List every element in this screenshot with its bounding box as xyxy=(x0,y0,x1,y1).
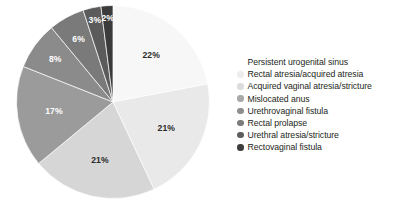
legend-item[interactable]: Urethral atresia/stricture xyxy=(237,129,402,141)
pie-slice-label: 6% xyxy=(72,34,85,44)
legend-swatch-icon xyxy=(237,108,244,115)
legend-swatch-icon xyxy=(237,132,244,139)
legend-item-label: Urethral atresia/stricture xyxy=(248,129,339,141)
legend-item[interactable]: Persistent urogenital sinus xyxy=(237,56,402,68)
pie-slice-label: 3% xyxy=(89,15,102,25)
legend-swatch-icon xyxy=(237,59,244,66)
legend-swatch-icon xyxy=(237,95,244,102)
legend-item[interactable]: Rectal atresia/acquired atresia xyxy=(237,68,402,80)
pie-slice-label: 21% xyxy=(91,155,109,165)
legend-item-label: Rectal prolapse xyxy=(248,117,308,129)
chart-legend: Persistent urogenital sinusRectal atresi… xyxy=(237,56,402,154)
legend-item[interactable]: Mislocated anus xyxy=(237,93,402,105)
pie-slice-label: 22% xyxy=(142,50,160,60)
pie-slice-label: 2% xyxy=(101,13,114,23)
pie-chart-svg: 22%21%21%17%8%6%3%2% xyxy=(16,5,210,199)
pie-slices-group xyxy=(17,6,210,199)
legend-swatch-icon xyxy=(237,144,244,151)
legend-item-label: Persistent urogenital sinus xyxy=(248,56,349,68)
legend-item-label: Rectovaginal fistula xyxy=(248,141,322,153)
legend-swatch-icon xyxy=(237,120,244,127)
legend-item-label: Urethrovaginal fistula xyxy=(248,105,329,117)
legend-item[interactable]: Acquired vaginal atresia/stricture xyxy=(237,80,402,92)
pie-chart-figure: 22%21%21%17%8%6%3%2% Persistent urogenit… xyxy=(0,0,404,211)
pie-slice-label: 21% xyxy=(158,123,176,133)
pie-slice-label: 8% xyxy=(49,54,62,64)
legend-item-label: Rectal atresia/acquired atresia xyxy=(248,68,364,80)
legend-item-label: Acquired vaginal atresia/stricture xyxy=(248,80,372,92)
pie-chart: 22%21%21%17%8%6%3%2% xyxy=(16,5,210,199)
legend-swatch-icon xyxy=(237,71,244,78)
legend-item[interactable]: Rectal prolapse xyxy=(237,117,402,129)
legend-item[interactable]: Rectovaginal fistula xyxy=(237,141,402,153)
legend-swatch-icon xyxy=(237,83,244,90)
legend-item[interactable]: Urethrovaginal fistula xyxy=(237,105,402,117)
pie-slice-label: 17% xyxy=(45,106,63,116)
legend-item-label: Mislocated anus xyxy=(248,93,310,105)
